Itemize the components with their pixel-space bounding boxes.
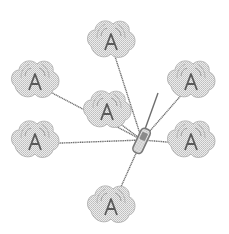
wireless-cloud-icon (84, 91, 131, 128)
wireless-cloud-icon (12, 61, 59, 98)
ap-middle-node (84, 91, 131, 128)
ap-upper-right-node (168, 61, 215, 98)
access-point-nodes (12, 21, 215, 223)
wireless-cloud-icon (88, 21, 135, 58)
hub-antenna-line (144, 93, 158, 132)
ap-lower-left-node (12, 121, 59, 158)
diagram-svg (0, 0, 229, 234)
network-diagram (0, 0, 229, 234)
wireless-cloud-icon (88, 186, 135, 223)
ap-lower-right-node (168, 121, 215, 158)
ap-bottom-node (88, 186, 135, 223)
ap-top-node (88, 21, 135, 58)
ap-upper-left-node (12, 61, 59, 98)
wireless-cloud-icon (168, 61, 215, 98)
wireless-cloud-icon (12, 121, 59, 158)
wireless-cloud-icon (168, 121, 215, 158)
